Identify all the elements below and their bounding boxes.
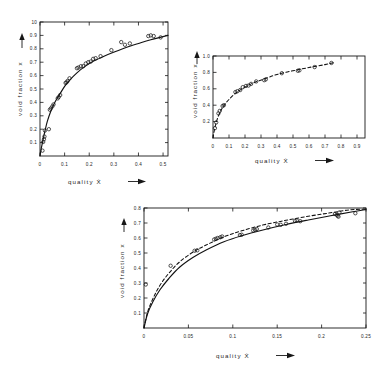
axes-top-right	[213, 56, 365, 138]
y-tick-label: 0.7	[30, 60, 37, 65]
x-ticks	[213, 135, 357, 139]
x-tick-label: 0.15	[272, 334, 282, 339]
x-tick-label: 0.1	[225, 144, 232, 149]
y-axis-title: void fraction x	[118, 243, 125, 298]
x-tick-label: 0.6	[305, 144, 312, 149]
x-axis-title: quality Ẋ	[216, 352, 250, 359]
x-tick-label: 0.5	[289, 144, 296, 149]
x-axis-arrow-head	[138, 179, 146, 185]
x-ticks	[144, 325, 366, 329]
y-axis-title-group: void fraction x	[191, 51, 200, 118]
data-point-marker	[276, 223, 279, 226]
top-ticks	[213, 56, 357, 60]
data-point-marker	[169, 264, 172, 267]
y-tick-label: 0.4	[30, 100, 37, 105]
top-ticks	[144, 208, 366, 212]
data-curve-dashed	[213, 63, 335, 138]
x-axis-title: quality Ẋ	[68, 178, 102, 185]
x-tick-label: 0.25	[361, 334, 371, 339]
y-tick-labels: 0.10.20.30.40.50.60.70.8	[134, 206, 141, 316]
y-tick-label: 0.1	[30, 140, 37, 145]
plot-frame	[213, 56, 365, 138]
y-axis-arrow-head	[19, 33, 24, 40]
figure-void-fraction-vs-quality: 0.10.20.30.40.50.60.70.80.910 00.10.20.3…	[0, 0, 379, 370]
x-tick-label: 0.3	[257, 144, 264, 149]
x-tick-label: 0.1	[61, 162, 68, 167]
data-point-marker	[120, 40, 123, 43]
y-tick-label: 0.4	[203, 103, 210, 108]
y-tick-label: 0.2	[134, 296, 141, 301]
data-point-marker	[47, 128, 50, 131]
chart-panel-bottom: 0.10.20.30.40.50.60.70.8 00.050.10.150.2…	[98, 198, 379, 370]
y-tick-label: 0.6	[30, 73, 37, 78]
y-tick-label: 0.1	[134, 311, 141, 316]
x-tick-label: 0.2	[318, 334, 325, 339]
y-tick-label: 0.2	[203, 119, 210, 124]
x-tick-label: 0.05	[183, 334, 193, 339]
top-ticks	[40, 22, 163, 26]
y-tick-labels: 0.10.20.30.40.50.60.70.80.910	[30, 20, 37, 146]
x-axis-title-group: quality Ẋ	[216, 352, 295, 359]
data-markers	[41, 34, 163, 153]
x-tick-label: 0.1	[229, 334, 236, 339]
chart-panel-top-right: 0.20.40.60.81.0 00.10.20.30.40.50.60.70.…	[185, 36, 379, 171]
x-axis-title-group: quality Ẋ	[255, 157, 334, 164]
y-axis-arrow-head	[194, 51, 199, 58]
y-tick-label: 10	[31, 20, 37, 25]
x-axis-title-group: quality Ẋ	[68, 178, 146, 185]
plot-bottom: 0.10.20.30.40.50.60.70.8 00.050.10.150.2…	[98, 198, 379, 370]
y-tick-label: 0.5	[134, 251, 141, 256]
y-axis-title-group: void fraction x	[16, 33, 25, 116]
y-tick-label: 0.3	[30, 113, 37, 118]
x-tick-label: 0.2	[241, 144, 248, 149]
x-axis-title: quality Ẋ	[255, 157, 289, 164]
x-tick-label: 0.7	[321, 144, 328, 149]
x-tick-labels: 00.10.20.30.40.5	[39, 162, 167, 167]
y-tick-label: 0.8	[30, 46, 37, 51]
data-point-marker	[128, 42, 131, 45]
y-axis-arrow-head	[121, 218, 126, 225]
data-point-marker	[354, 212, 357, 215]
y-tick-label: 0.6	[203, 86, 210, 91]
y-tick-label: 0.5	[30, 87, 37, 92]
y-tick-label: 0.8	[203, 70, 210, 75]
x-tick-label: 0	[143, 334, 146, 339]
plot-frame	[40, 22, 168, 156]
axes-bottom	[144, 208, 366, 328]
x-tick-labels: 00.050.10.150.20.25	[143, 334, 372, 339]
y-tick-label: 0.8	[134, 206, 141, 211]
x-tick-label: 0.3	[110, 162, 117, 167]
x-tick-label: 0.2	[86, 162, 93, 167]
x-ticks	[40, 153, 163, 157]
data-markers	[213, 61, 333, 130]
x-tick-labels: 00.10.20.30.40.50.60.70.80.9	[212, 144, 361, 149]
chart-panel-top-left: 0.10.20.30.40.50.60.70.80.910 00.10.20.3…	[0, 6, 190, 196]
x-tick-label: 0	[39, 162, 42, 167]
data-point-marker	[110, 48, 113, 51]
x-tick-label: 0	[212, 144, 215, 149]
y-tick-label: 0.6	[134, 236, 141, 241]
y-tick-label: 0.9	[30, 33, 37, 38]
y-tick-label: 0.3	[134, 281, 141, 286]
data-markers	[144, 211, 357, 286]
y-axis-title: void fraction x	[16, 61, 23, 116]
y-axis-title-group: void fraction x	[118, 218, 127, 298]
x-axis-arrow-head	[287, 353, 295, 359]
y-ticks	[213, 56, 217, 122]
plot-top-right: 0.20.40.60.81.0 00.10.20.30.40.50.60.70.…	[185, 36, 379, 171]
y-tick-label: 0.4	[134, 266, 141, 271]
y-tick-label: 1.0	[203, 54, 210, 59]
x-tick-label: 0.8	[337, 144, 344, 149]
x-tick-label: 0.4	[273, 144, 280, 149]
y-axis-title: void fraction x	[191, 63, 198, 118]
y-tick-labels: 0.20.40.60.81.0	[203, 54, 210, 125]
x-tick-label: 0.4	[135, 162, 142, 167]
data-point-marker	[123, 43, 126, 46]
plot-top-left: 0.10.20.30.40.50.60.70.80.910 00.10.20.3…	[0, 6, 190, 196]
x-axis-arrow-head	[326, 158, 334, 164]
y-tick-label: 0.7	[134, 221, 141, 226]
axes-top-left	[40, 22, 168, 156]
y-tick-label: 0.2	[30, 127, 37, 132]
x-tick-label: 0.5	[160, 162, 167, 167]
y-ticks	[144, 208, 366, 313]
